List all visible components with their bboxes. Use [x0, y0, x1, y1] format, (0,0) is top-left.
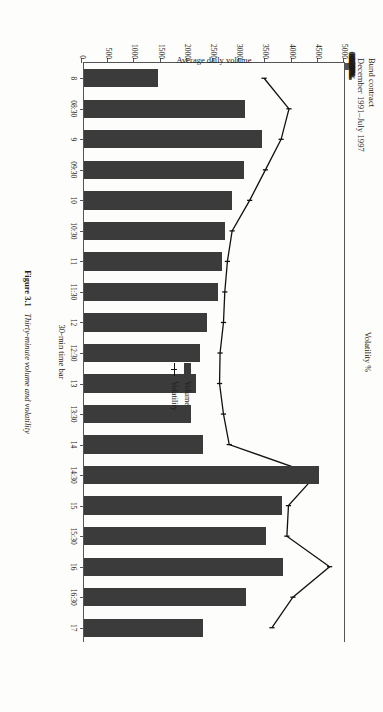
volume-bar: [84, 466, 319, 484]
figure-3-1: Bund contract December 1991–July 1997 Av…: [0, 0, 383, 712]
volume-bar: [84, 588, 246, 606]
volume-bar: [84, 435, 203, 453]
volume-bar: [84, 313, 207, 331]
y-axis-tick-label: 0: [78, 55, 87, 59]
volume-bar: [84, 222, 225, 240]
y-axis-tick-label: 3500: [261, 44, 270, 59]
x-axis-tick-label: 11:30: [69, 284, 78, 301]
caption-text: Thirty-minute volume and volatility: [23, 313, 33, 434]
legend-item-volatility: Volatility: [168, 363, 181, 411]
x-axis-tick: [80, 139, 84, 140]
x-axis-tick: [80, 445, 84, 446]
y-axis-tick-label: 4000: [287, 44, 296, 59]
x-axis-tick-label: 14: [69, 441, 78, 449]
x-axis-tick: [80, 109, 84, 110]
legend-label-volatility: Volatility: [168, 381, 181, 411]
x-axis-tick: [80, 597, 84, 598]
plot-area: Average daily volume Volume Volatility 0…: [83, 62, 345, 642]
x-axis-tick-label: 8: [69, 76, 78, 80]
x-axis-tick-label: 13: [69, 380, 78, 388]
volume-swatch-icon: [184, 363, 191, 376]
x-axis-tick: [80, 628, 84, 629]
x-axis-tick: [80, 353, 84, 354]
volume-bar: [84, 252, 222, 270]
y-axis-tick-label: 1500: [156, 44, 165, 59]
x-axis-tick: [80, 170, 84, 171]
y-axis-tick-label: 3000: [235, 44, 244, 59]
volume-bar: [84, 130, 262, 148]
figure-caption: Figure 3.1 Thirty-minute volume and vola…: [23, 62, 33, 642]
x-axis-tick-label: 16: [69, 563, 78, 571]
x-axis-title: 30-min time bar: [57, 62, 67, 642]
y-axis-tick-label: 4500: [313, 44, 322, 59]
y2-axis-tick-label: 0.100%: [347, 57, 356, 80]
x-axis-tick: [80, 475, 84, 476]
volume-bar: [84, 283, 218, 301]
x-axis-tick-label: 17: [69, 624, 78, 632]
x-axis-tick-label: 14:30: [69, 467, 78, 484]
plot-inner: [84, 63, 344, 642]
x-axis-tick: [80, 292, 84, 293]
volume-bar: [84, 558, 283, 576]
caption-label: Figure 3.1: [23, 270, 33, 307]
x-axis-tick-label: 13:30: [69, 406, 78, 423]
x-axis-tick-label: 15: [69, 502, 78, 510]
volume-bar: [84, 619, 203, 637]
x-axis-tick: [80, 536, 84, 537]
volume-bar: [84, 527, 266, 545]
volume-bar: [84, 344, 200, 362]
legend-item-volume: Volume: [181, 363, 194, 411]
x-axis-tick-label: 9: [69, 137, 78, 141]
x-axis-tick: [80, 200, 84, 201]
y-axis-tick-label: 2000: [182, 44, 191, 59]
x-axis-tick-label: 08:30: [69, 100, 78, 117]
rotated-page-canvas: Bund contract December 1991–July 1997 Av…: [0, 0, 383, 712]
x-axis-tick-label: 10:30: [69, 222, 78, 239]
x-axis-tick-label: 12:30: [69, 344, 78, 361]
x-axis-tick-label: 12: [69, 319, 78, 327]
x-axis-tick: [80, 322, 84, 323]
volume-bar: [84, 100, 245, 118]
x-axis-tick-label: 09:30: [69, 161, 78, 178]
x-axis-tick-label: 10: [69, 197, 78, 205]
y-axis-tick-label: 1000: [130, 44, 139, 59]
x-axis-tick: [80, 414, 84, 415]
volatility-line-icon: [171, 363, 178, 376]
legend-label-volume: Volume: [181, 381, 194, 406]
volume-bar: [84, 496, 282, 514]
x-axis-tick: [80, 384, 84, 385]
x-axis-tick: [80, 567, 84, 568]
x-axis-tick: [80, 506, 84, 507]
volume-bar: [84, 161, 244, 179]
volume-bar: [84, 69, 158, 87]
x-axis-tick-label: 11: [69, 258, 78, 265]
chart-legend: Volume Volatility: [168, 363, 194, 411]
x-axis-tick: [80, 261, 84, 262]
y2-axis-title-volatility: Volatility %: [363, 62, 373, 642]
x-axis-tick: [80, 231, 84, 232]
volume-bar: [84, 191, 232, 209]
y-axis-tick-label: 2500: [209, 44, 218, 59]
y-axis-tick-label: 500: [104, 48, 113, 59]
x-axis-tick-label: 15:30: [69, 528, 78, 545]
x-axis-tick-label: 16:30: [69, 589, 78, 606]
x-axis-tick: [80, 78, 84, 79]
